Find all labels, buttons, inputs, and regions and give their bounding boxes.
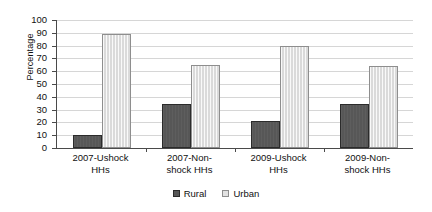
bar-group [57, 20, 146, 148]
bar-chart-figure: Percentage 0102030405060708090100 2007-U… [0, 0, 432, 212]
legend-item-label: Rural [184, 188, 207, 199]
x-category-label-line: 2007-Non- [167, 152, 212, 163]
bar-urban [280, 46, 309, 148]
legend-item-rural[interactable]: Rural [173, 188, 207, 199]
bar-group [146, 20, 235, 148]
y-tick-label: 30 [36, 105, 47, 115]
bar-rural [251, 121, 280, 148]
x-category-label: 2007-Non-shock HHs [145, 152, 234, 175]
y-tick-label: 90 [36, 28, 47, 38]
y-tick-label: 50 [36, 79, 47, 89]
x-category-label-line: HHs [56, 164, 145, 176]
bar-rural [340, 104, 369, 148]
x-category-label-line: HHs [234, 164, 323, 176]
bar-urban [191, 65, 220, 148]
bar-urban [102, 34, 131, 148]
x-category-label: 2009-Non-shock HHs [323, 152, 412, 175]
x-category-label-line: shock HHs [145, 164, 234, 176]
y-tick-label: 100 [31, 15, 47, 25]
urban-swatch-icon [222, 190, 229, 197]
x-category-label: 2009-UshockHHs [234, 152, 323, 175]
chart-legend: RuralUrban [0, 188, 432, 199]
x-category-label-line: 2009-Ushock [251, 152, 307, 163]
bar-group [235, 20, 324, 148]
y-tick-label: 10 [36, 130, 47, 140]
y-tick-label: 0 [42, 143, 47, 153]
legend-item-label: Urban [233, 188, 259, 199]
y-tick-label: 20 [36, 117, 47, 127]
x-category-label-line: shock HHs [323, 164, 412, 176]
x-category-label-line: 2007-Ushock [73, 152, 129, 163]
plot-area [56, 20, 413, 149]
x-category-label: 2007-UshockHHs [56, 152, 145, 175]
bar-rural [73, 135, 102, 148]
x-axis-category-labels: 2007-UshockHHs2007-Non-shock HHs2009-Ush… [56, 152, 412, 182]
bar-rural [162, 104, 191, 148]
y-tick-label: 60 [36, 66, 47, 76]
y-axis-ticks: 0102030405060708090100 [0, 0, 56, 212]
legend-item-urban[interactable]: Urban [222, 188, 259, 199]
y-tick-label: 40 [36, 92, 47, 102]
x-category-label-line: 2009-Non- [345, 152, 390, 163]
rural-swatch-icon [173, 190, 180, 197]
bar-urban [369, 66, 398, 148]
bar-group [324, 20, 413, 148]
y-tick-label: 70 [36, 53, 47, 63]
y-tick-label: 80 [36, 41, 47, 51]
